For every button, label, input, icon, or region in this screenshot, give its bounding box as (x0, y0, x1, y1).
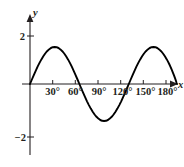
x-tick-label-180: 180° (158, 86, 178, 97)
x-axis-label: x (177, 79, 183, 90)
x-tick-label-30: 30° (45, 86, 60, 97)
y-axis-label: y (31, 7, 38, 18)
x-tick-label-120: 120° (113, 86, 133, 97)
plot-canvas: 30° 60° 90° 120° 150° 180° 2 −2 y x (0, 0, 184, 167)
y-tick-label-2: 2 (20, 31, 25, 42)
y-tick-label-neg2: −2 (15, 132, 26, 143)
x-tick-label-90: 90° (92, 86, 107, 97)
x-tick-label-150: 150° (136, 86, 156, 97)
trigonometric-graph-figure: 30° 60° 90° 120° 150° 180° 2 −2 y x (0, 0, 184, 167)
x-axis-ticks (53, 80, 166, 84)
x-tick-label-60: 60° (68, 86, 83, 97)
